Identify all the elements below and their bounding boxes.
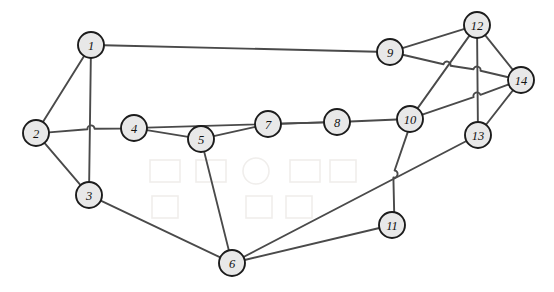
graph-edge-6-13	[244, 141, 467, 257]
graph-node-label-5: 5	[198, 133, 204, 147]
graph-node-label-2: 2	[33, 127, 39, 141]
graph-edge-10-12	[418, 36, 470, 109]
graph-edge-1-2	[43, 56, 84, 122]
graph-edge-1-3	[89, 58, 91, 182]
graph-node-4[interactable]: 4	[121, 115, 147, 141]
graph-edge-3-6	[101, 201, 221, 258]
graph-edge-10-14	[422, 84, 508, 114]
graph-node-3[interactable]: 3	[76, 182, 102, 208]
graph-edge-7-8	[281, 122, 324, 123]
graph-node-label-12: 12	[471, 19, 484, 33]
graph-node-10[interactable]: 10	[397, 106, 423, 132]
graph-edge-6-11	[245, 228, 380, 260]
graph-node-label-4: 4	[131, 122, 137, 136]
graph-node-label-9: 9	[387, 46, 394, 60]
graph-edge-9-12	[402, 29, 464, 48]
graph-node-8[interactable]: 8	[324, 109, 350, 135]
graph-edge-13-14	[486, 90, 513, 125]
graph-node-7[interactable]: 7	[255, 111, 281, 137]
graph-canvas: 1234567891011121314	[0, 0, 554, 292]
graph-node-label-14: 14	[515, 74, 528, 88]
graph-node-label-7: 7	[265, 118, 272, 132]
graph-node-label-1: 1	[88, 39, 94, 53]
graph-edge-2-4	[49, 125, 121, 132]
graph-edge-5-6	[204, 152, 229, 251]
graph-node-14[interactable]: 14	[508, 67, 534, 93]
graph-node-label-10: 10	[404, 113, 417, 127]
graph-edge-12-14	[485, 35, 513, 70]
graph-edge-1-9	[104, 45, 377, 51]
graph-edge-12-13	[477, 38, 478, 122]
graph-node-1[interactable]: 1	[78, 32, 104, 58]
graph-node-5[interactable]: 5	[188, 126, 214, 152]
graph-diagram: 1234567891011121314	[0, 0, 554, 292]
graph-node-12[interactable]: 12	[464, 12, 490, 38]
graph-edge-2-3	[44, 143, 80, 185]
graph-node-2[interactable]: 2	[23, 120, 49, 146]
graph-edge-4-5	[147, 130, 188, 137]
graph-edge-8-10	[350, 120, 397, 122]
graph-node-label-8: 8	[334, 116, 341, 130]
graph-node-label-11: 11	[386, 219, 398, 233]
graph-node-label-3: 3	[85, 189, 92, 203]
background-artifacts	[150, 158, 356, 218]
graph-node-13[interactable]: 13	[465, 122, 491, 148]
graph-node-label-6: 6	[229, 257, 236, 271]
graph-edge-5-7	[214, 127, 256, 136]
graph-node-9[interactable]: 9	[377, 39, 403, 65]
graph-node-6[interactable]: 6	[219, 250, 245, 276]
graph-node-label-13: 13	[472, 129, 485, 143]
graph-edge-9-14	[403, 55, 509, 78]
graph-node-11[interactable]: 11	[379, 212, 405, 238]
edge-layer	[43, 29, 513, 260]
